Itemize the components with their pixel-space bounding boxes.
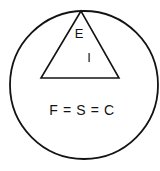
- diagram-canvas: E I F = S = C: [0, 0, 160, 171]
- equation-label: F = S = C: [49, 102, 114, 118]
- inner-triangle: [41, 11, 119, 78]
- outer-circle: [10, 11, 158, 159]
- circle-triangle-diagram: E I F = S = C: [0, 0, 160, 171]
- triangle-label-e: E: [75, 26, 84, 41]
- triangle-label-i: I: [87, 50, 91, 65]
